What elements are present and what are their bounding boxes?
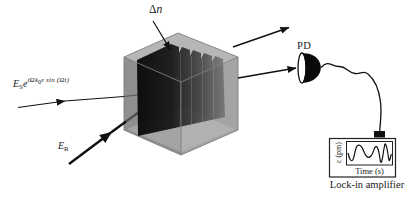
figure-canvas: Δn ESeiΩk0ε sin (Ωt) ER PD ε (pm) Time (… [0,0,417,200]
grating-label: Δn [149,4,162,16]
photodetector-icon [298,53,321,83]
diffracted-beam-arrow [233,28,289,48]
transmitted-beam-arrow [238,68,296,78]
signal-beam-arrow [18,101,65,108]
cable-connector [374,131,385,138]
lockin-caption: Lock-in amplifier [321,180,413,191]
reference-beam-arrow [69,133,111,165]
lockin-xlabel: Time (s) [347,167,392,176]
signal-cable [321,64,381,131]
reference-beam-label: ER [58,141,69,153]
lockin-ylabel: ε (pm) [335,138,346,168]
signal-beam-line [65,97,124,102]
signal-beam-label: ESeiΩk0ε sin (Ωt) [13,77,69,91]
photodetector-label: PD [297,41,311,52]
